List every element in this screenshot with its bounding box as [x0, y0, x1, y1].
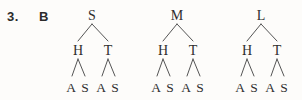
tree-3-leaf-t-a: A: [265, 81, 275, 95]
tree-2-node-t: T: [189, 44, 198, 58]
tree-2-leaf-h-a: A: [151, 81, 161, 95]
tree-1: S H T A S A S: [48, 0, 138, 100]
tree-2-node-h: H: [158, 44, 168, 58]
tree-1-node-t: T: [104, 44, 113, 58]
tree-1-leaf-h-s: S: [81, 81, 89, 95]
tree-3-node-t: T: [273, 44, 282, 58]
tree-1-node-h: H: [73, 44, 83, 58]
tree-3: L H T A S A S: [217, 0, 302, 100]
tree-2-root-node: M: [171, 9, 183, 23]
tree-1-leaf-h-a: A: [66, 81, 76, 95]
tree-3-root-node: L: [257, 9, 266, 23]
tree-2-leaf-t-s: S: [196, 81, 204, 95]
tree-2-leaf-t-a: A: [181, 81, 191, 95]
tree-3-leaf-h-s: S: [250, 81, 258, 95]
tree-1-leaf-t-a: A: [96, 81, 106, 95]
exercise-number: 3.: [7, 10, 19, 23]
tree-3-node-h: H: [242, 44, 252, 58]
tree-2: M H T A S A S: [133, 0, 223, 100]
tree-diagram-figure: 3. B S H T A S A S M H T A S: [0, 0, 302, 100]
tree-2-leaf-h-s: S: [166, 81, 174, 95]
tree-3-leaf-h-a: A: [235, 81, 245, 95]
tree-1-leaf-t-s: S: [111, 81, 119, 95]
exercise-part-letter: B: [39, 10, 48, 23]
tree-3-leaf-t-s: S: [280, 81, 288, 95]
tree-1-root-node: S: [88, 9, 96, 23]
